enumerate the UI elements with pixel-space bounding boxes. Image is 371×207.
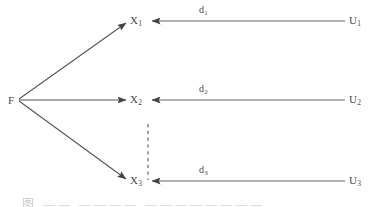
node-label-u1: U1 [349, 15, 361, 26]
diagram-vector-layer [0, 0, 371, 207]
edge-label-d3: d3 [199, 165, 208, 175]
fan-out-edges [19, 23, 126, 179]
edge-label-d2: d2 [199, 84, 208, 94]
caption-fragment-text: 图 —— ———— ———————— [22, 198, 265, 207]
caption-clipped-strip: 图 —— ———— ———————— [0, 198, 371, 207]
node-label-u3: U3 [349, 175, 361, 186]
node-label-x3: X3 [130, 175, 142, 186]
return-edges [152, 21, 345, 181]
node-label-u2: U2 [349, 94, 361, 105]
edge-label-d1: d1 [199, 5, 208, 15]
node-label-x1: X1 [130, 15, 142, 26]
node-label-f: F [8, 95, 14, 106]
diagram-canvas: F X1 X2 X3 U1 U2 U3 d1 d2 d3 图 —— ———— —… [0, 0, 371, 207]
edge-f-to-x1 [19, 23, 126, 99]
node-label-x2: X2 [130, 94, 142, 105]
edge-f-to-x3 [19, 101, 126, 179]
